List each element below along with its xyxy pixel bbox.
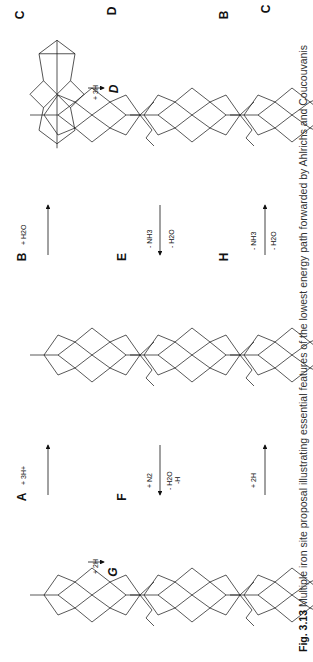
arrow-label-2h-b: + 2H bbox=[250, 473, 257, 488]
caption-label: Fig. 3.13 bbox=[297, 610, 309, 652]
cluster-F-structure bbox=[130, 568, 254, 626]
arrow-label-h2o-minus: - H2O bbox=[168, 229, 175, 248]
arrow-label-nh3: - NH3 bbox=[146, 230, 153, 248]
arrow-label-n2: + N2 bbox=[146, 473, 153, 488]
cluster-E-structure bbox=[130, 328, 254, 386]
caption-text: Multiple iron site proposal illustrating… bbox=[297, 45, 309, 607]
figure-caption: Fig. 3.13 Multiple iron site proposal il… bbox=[297, 12, 309, 652]
arrow-label-h-minus: -H bbox=[174, 477, 181, 484]
panel-label-e: E bbox=[115, 253, 129, 261]
arrow-label-h2o-b: - H2O bbox=[270, 231, 277, 250]
panel-label-b-top: B bbox=[217, 11, 231, 20]
panel-label-d: D bbox=[107, 85, 121, 94]
arrow-label-h2o-minus-2: - H2O bbox=[166, 471, 173, 490]
panel-label-c: C bbox=[13, 11, 27, 20]
arrow-label-nh3-b: - NH3 bbox=[250, 232, 257, 250]
arrow-label-2h: + 2H bbox=[92, 559, 99, 574]
panel-label-f: F bbox=[115, 493, 129, 500]
figure-page: C D bbox=[0, 0, 313, 662]
panel-label-g: G bbox=[106, 567, 120, 576]
panel-label-b: B bbox=[15, 253, 29, 262]
arrow-label-3h: + 3H bbox=[92, 85, 99, 100]
panel-label-h: H bbox=[217, 253, 231, 262]
arrow-label-h2o-plus: + H2O bbox=[20, 225, 27, 245]
arrow-label-3h-plus: + 3H+ bbox=[20, 466, 27, 485]
panel-label-a: A bbox=[15, 493, 29, 502]
cluster-A-structure bbox=[30, 568, 154, 626]
reaction-scheme bbox=[0, 0, 313, 662]
cluster-D-structure bbox=[130, 88, 254, 146]
cluster-B-structure bbox=[30, 328, 154, 386]
